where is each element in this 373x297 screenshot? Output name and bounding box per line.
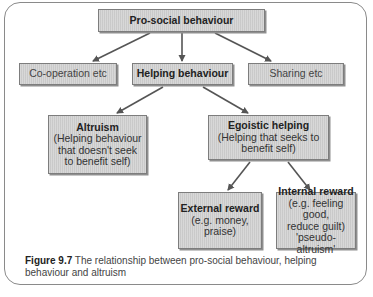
arrow-prosocial-sharing <box>215 33 271 61</box>
node-pro-social-behaviour: Pro-social behaviour <box>98 9 265 32</box>
node-egoistic-helping: Egoistic helping (Helping that seeks to … <box>208 115 329 160</box>
node-title: Helping behaviour <box>137 68 229 80</box>
node-title: Sharing etc <box>269 68 322 80</box>
node-helping-behaviour: Helping behaviour <box>132 63 233 85</box>
node-desc-line: benefit self) <box>241 143 295 155</box>
figure-label: Figure 9.7 <box>25 255 72 266</box>
node-desc-line: (e.g. feeling good, <box>277 198 355 221</box>
node-desc-line: (Helping behaviour <box>53 133 141 145</box>
node-co-operation: Co-operation etc <box>19 63 117 85</box>
figure-caption: Figure 9.7 The relationship between pro-… <box>25 255 345 279</box>
node-sharing: Sharing etc <box>248 63 344 85</box>
node-title: Pro-social behaviour <box>130 15 234 27</box>
node-altruism: Altruism (Helping behaviour that doesn't… <box>48 115 147 174</box>
node-desc-line: to benefit self) <box>65 156 131 168</box>
arrow-helping-egoistic <box>203 87 248 113</box>
node-desc-line: 'pseudo-altruism' <box>277 232 355 255</box>
node-title: Internal reward <box>278 186 353 198</box>
node-title: Co-operation etc <box>29 68 107 80</box>
node-external-reward: External reward (e.g. money, praise) <box>178 192 262 249</box>
node-internal-reward: Internal reward (e.g. feeling good, redu… <box>276 192 356 249</box>
arrow-egoistic-external <box>228 162 250 190</box>
node-desc-line: praise) <box>204 226 236 238</box>
arrow-prosocial-cooperation <box>93 33 150 61</box>
arrow-helping-altruism <box>117 87 163 113</box>
